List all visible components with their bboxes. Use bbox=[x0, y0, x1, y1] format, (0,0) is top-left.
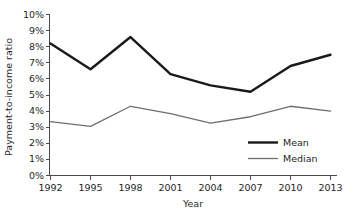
x-tick-label: 2007 bbox=[238, 182, 262, 193]
x-tick-label: 2010 bbox=[278, 182, 302, 193]
x-tick-label: 2001 bbox=[158, 182, 182, 193]
y-tick-marks bbox=[46, 15, 50, 176]
x-tick-label: 1992 bbox=[38, 182, 62, 193]
y-tick-label: 8% bbox=[29, 41, 44, 52]
y-tick-label: 2% bbox=[29, 137, 44, 148]
y-tick-label: 10% bbox=[23, 9, 44, 20]
legend-label-median: Median bbox=[283, 153, 318, 164]
y-tick-label: 0% bbox=[29, 170, 44, 181]
data-line-mean bbox=[51, 37, 331, 92]
x-tick-label: 1998 bbox=[118, 182, 142, 193]
y-tick-label: 5% bbox=[29, 89, 44, 100]
y-axis-title: Payment-to-income ratio bbox=[3, 38, 14, 156]
y-tick-label: 7% bbox=[29, 57, 44, 68]
x-axis-title: Year bbox=[182, 198, 203, 209]
x-tick-label: 2013 bbox=[318, 182, 342, 193]
x-tick-marks bbox=[51, 176, 331, 181]
chart-container: Payment-to-income ratio 10% 9% 8% 7% 6% … bbox=[0, 0, 356, 215]
x-tick-label: 1995 bbox=[78, 182, 102, 193]
line-chart: Payment-to-income ratio 10% 9% 8% 7% 6% … bbox=[0, 0, 356, 215]
data-line-median bbox=[51, 106, 331, 126]
y-tick-label: 6% bbox=[29, 73, 44, 84]
y-tick-label: 4% bbox=[29, 105, 44, 116]
y-tick-label: 1% bbox=[29, 153, 44, 164]
y-tick-labels: 10% 9% 8% 7% 6% 5% 4% 3% 2% 1% 0% bbox=[23, 9, 44, 181]
y-tick-label: 3% bbox=[29, 121, 44, 132]
chart-legend: Mean Median bbox=[248, 137, 318, 164]
x-tick-labels: 1992 1995 1998 2001 2004 2007 2010 2013 bbox=[38, 182, 342, 193]
x-tick-label: 2004 bbox=[198, 182, 222, 193]
legend-label-mean: Mean bbox=[283, 137, 309, 148]
y-tick-label: 9% bbox=[29, 25, 44, 36]
